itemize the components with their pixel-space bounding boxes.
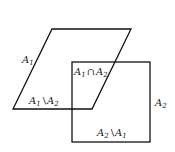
label-a1-minus-a2: A1\A2 [28, 95, 59, 108]
label-a1: A1 [21, 54, 34, 67]
set-difference-diagram: A1 A2 A1∩A2 A1\A2 A2\A1 [0, 0, 175, 152]
label-a2-minus-a1: A2\A1 [96, 127, 127, 140]
label-a2: A2 [154, 97, 167, 110]
label-intersection: A1∩A2 [73, 66, 108, 79]
diagram-svg: A1 A2 A1∩A2 A1\A2 A2\A1 [0, 0, 175, 152]
